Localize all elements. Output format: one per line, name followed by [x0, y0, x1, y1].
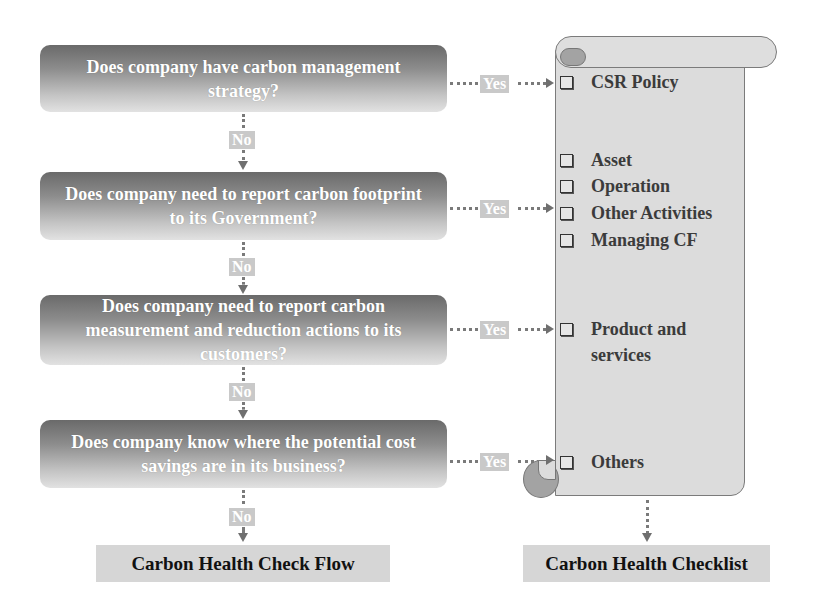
- no-connector-4: [242, 490, 245, 504]
- checklist-item: Managing CF: [560, 227, 698, 253]
- checkbox-icon[interactable]: [560, 76, 573, 89]
- arrow-down-icon: [238, 410, 248, 419]
- yes-tag-1: Yes: [480, 75, 509, 93]
- arrow-right-icon: [546, 324, 554, 334]
- arrow-down-icon: [238, 285, 248, 294]
- scroll-top-roll: [555, 36, 777, 68]
- checklist-connector: [646, 500, 649, 534]
- arrow-right-icon: [546, 455, 554, 465]
- checklist-item: Product and services: [560, 316, 711, 368]
- arrow-down-icon: [642, 533, 652, 542]
- no-connector-1: [242, 114, 245, 128]
- question-text-4: Does company know where the potential co…: [62, 430, 425, 478]
- yes-connector-1b: [518, 82, 546, 85]
- yes-tag-4: Yes: [480, 453, 509, 471]
- no-connector-1b: [242, 150, 245, 160]
- yes-connector-1: [450, 82, 478, 85]
- question-text-1: Does company have carbon management stra…: [62, 55, 425, 103]
- yes-connector-2: [450, 207, 478, 210]
- question-box-3: Does company need to report carbon measu…: [40, 295, 447, 365]
- question-box-2: Does company need to report carbon footp…: [40, 172, 447, 240]
- arrow-down-icon: [238, 161, 248, 170]
- checkbox-icon[interactable]: [560, 323, 573, 336]
- no-connector-2: [242, 242, 245, 256]
- yes-connector-3b: [518, 328, 546, 331]
- checklist-item: Asset: [560, 147, 632, 173]
- checkbox-icon[interactable]: [560, 456, 573, 469]
- yes-tag-2: Yes: [480, 200, 509, 218]
- checkbox-icon[interactable]: [560, 207, 573, 220]
- arrow-down-icon: [238, 533, 248, 542]
- yes-tag-3: Yes: [480, 321, 509, 339]
- checkbox-icon[interactable]: [560, 154, 573, 167]
- no-tag-1: No: [229, 131, 255, 149]
- question-box-1: Does company have carbon management stra…: [40, 45, 447, 112]
- flow-footer-label: Carbon Health Check Flow: [96, 545, 390, 582]
- no-tag-2: No: [229, 258, 255, 276]
- checklist-item: Operation: [560, 173, 670, 199]
- checklist-scroll: [555, 50, 745, 496]
- arrow-right-icon: [546, 78, 554, 88]
- no-tag-4: No: [229, 508, 255, 526]
- yes-connector-3: [450, 328, 478, 331]
- question-box-4: Does company know where the potential co…: [40, 420, 447, 488]
- checklist-item: CSR Policy: [560, 69, 679, 95]
- yes-connector-2b: [518, 207, 546, 210]
- arrow-right-icon: [546, 203, 554, 213]
- checklist-footer-label: Carbon Health Checklist: [523, 545, 770, 582]
- no-tag-3: No: [229, 383, 255, 401]
- yes-connector-4: [450, 460, 478, 463]
- checkbox-icon[interactable]: [560, 234, 573, 247]
- no-connector-3b: [242, 402, 245, 410]
- checklist-item: Other Activities: [560, 200, 712, 226]
- scroll-curl-icon: [560, 48, 586, 66]
- no-connector-2b: [242, 277, 245, 285]
- question-text-2: Does company need to report carbon footp…: [62, 182, 425, 230]
- question-text-3: Does company need to report carbon measu…: [54, 294, 433, 366]
- checklist-item: Others: [560, 449, 644, 475]
- checkbox-icon[interactable]: [560, 180, 573, 193]
- no-connector-3: [242, 367, 245, 381]
